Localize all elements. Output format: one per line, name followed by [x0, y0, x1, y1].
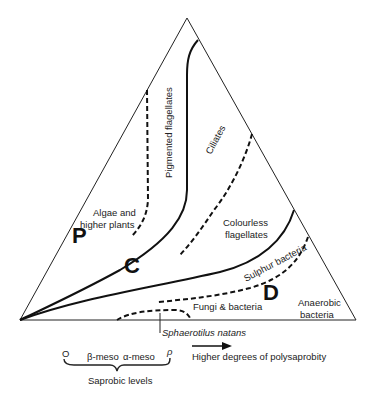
boundary-sulphur-fungi: [158, 237, 308, 302]
level-o: O: [62, 348, 69, 359]
polysaprobity-label: Higher degrees of polysaprobity: [192, 351, 326, 362]
ciliates-label: Ciliates: [203, 123, 227, 156]
region-c-label: C: [124, 253, 140, 278]
boundary-sphaerotilus: [117, 310, 191, 320]
polysaprobity-arrow-icon: [222, 342, 232, 350]
sphaerotilus-label: Sphaerotilus natans: [162, 327, 246, 338]
algae-label-line2: higher plants: [80, 219, 135, 230]
boundary-pigmented-ciliates: [20, 40, 198, 320]
algae-label-line1: Algae and: [93, 207, 136, 218]
anaerobic-label-line1: Anaerobic: [298, 297, 341, 308]
level-alpha-meso: α-meso: [123, 351, 155, 362]
level-rho: ρ: [166, 346, 173, 357]
level-beta-meso: β-meso: [87, 351, 119, 362]
anaerobic-label-line2: bacteria: [300, 309, 335, 320]
pigmented-flagellates-label: Pigmented flagellates: [163, 87, 174, 178]
saprobity-diagram: P C D Pigmented flagellates Ciliates Sul…: [0, 0, 371, 397]
colourless-label-line1: Colourless: [223, 217, 268, 228]
region-d-label: D: [263, 280, 279, 305]
colourless-label-line2: flagellates: [225, 229, 268, 240]
sulphur-bacteria-label: Sulphur bacteria: [242, 241, 309, 284]
fungi-bacteria-label: Fungi & bacteria: [193, 301, 263, 312]
saprobic-levels-label: Saprobic levels: [88, 375, 153, 386]
